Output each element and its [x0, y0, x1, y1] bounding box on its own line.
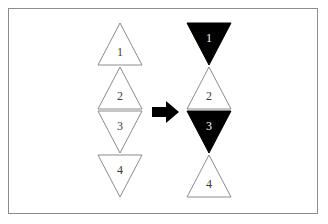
figure-content: 1 2 3 4 — [0, 0, 328, 224]
left-triangle-2 — [97, 66, 143, 110]
right-triangle-3-label: 3 — [199, 120, 219, 132]
left-triangle-4-label: 4 — [110, 164, 130, 176]
right-triangle-4 — [186, 154, 232, 198]
right-arrow-icon — [152, 101, 180, 123]
right-triangle-1-label: 1 — [199, 32, 219, 44]
right-triangle-2-label: 2 — [199, 90, 219, 102]
right-triangle-4-label: 4 — [199, 178, 219, 190]
left-triangle-1 — [97, 22, 143, 66]
left-triangle-1-label: 1 — [110, 46, 130, 58]
left-triangle-2-label: 2 — [110, 90, 130, 102]
figure-canvas: 1 2 3 4 — [0, 0, 328, 224]
right-triangle-2 — [186, 66, 232, 110]
left-triangle-3-label: 3 — [110, 120, 130, 132]
